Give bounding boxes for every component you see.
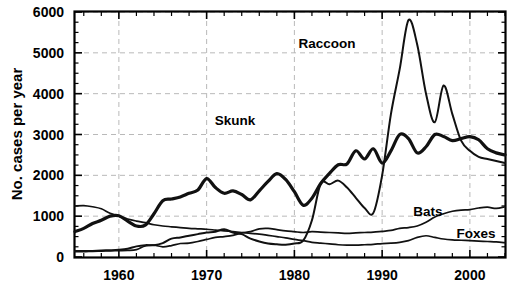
y-tick-label: 3000 [33,127,64,143]
y-tick-label: 2000 [33,167,64,183]
y-tick-label: 6000 [33,4,64,20]
foxes-label: Foxes [456,226,495,241]
x-tick-label: 1980 [279,267,310,283]
x-tick-label: 2000 [454,267,485,283]
bats-label: Bats [413,204,442,219]
x-tick-label: 1990 [367,267,398,283]
y-tick-label: 4000 [33,86,64,102]
y-tick-label: 1000 [33,208,64,224]
raccoon-label: Raccoon [298,36,355,51]
x-tick-label: 1970 [191,267,222,283]
chart-background [0,0,524,292]
y-tick-label: 0 [56,249,64,265]
rabies-cases-chart-figure: 0100020003000400050006000 19601970198019… [0,0,524,292]
skunk-label: Skunk [215,113,256,128]
y-tick-label: 5000 [33,45,64,61]
x-tick-label: 1960 [103,267,134,283]
chart-canvas: 0100020003000400050006000 19601970198019… [0,0,524,292]
y-axis-title: No. cases per year [8,68,25,201]
